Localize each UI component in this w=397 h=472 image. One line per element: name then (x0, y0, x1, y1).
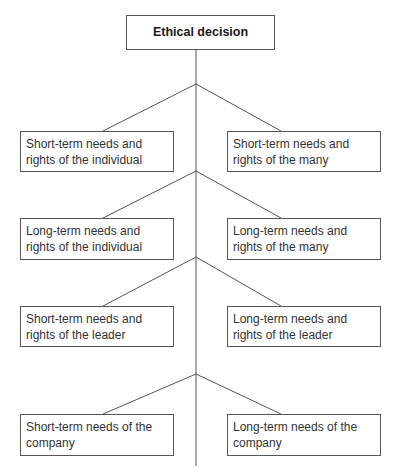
node-short-term-individual: Short-term needs and rights of the indiv… (20, 131, 174, 172)
root-node-ethical-decision: Ethical decision (126, 15, 275, 50)
node-long-term-company: Long-term needs of the company (227, 414, 381, 456)
node-long-term-leader: Long-term needs and rights of the leader (227, 306, 381, 347)
node-long-term-many: Long-term needs and rights of the many (227, 218, 381, 260)
node-short-term-company: Short-term needs of the company (20, 414, 174, 456)
node-long-term-individual: Long-term needs and rights of the indivi… (20, 218, 174, 260)
node-short-term-leader: Short-term needs and rights of the leade… (20, 306, 174, 347)
node-short-term-many: Short-term needs and rights of the many (227, 131, 381, 172)
